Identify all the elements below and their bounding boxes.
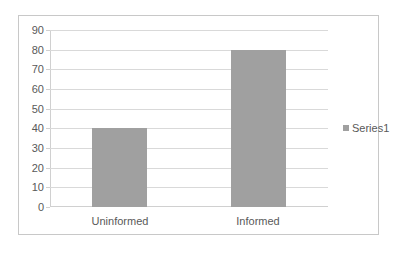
bar-informed [231,50,286,207]
y-tick-label: 80 [14,44,44,56]
x-label-uninformed: Uninformed [70,215,170,227]
y-tick [46,50,50,51]
y-tick-label: 60 [14,83,44,95]
y-tick [46,168,50,169]
gridline [50,30,328,31]
y-tick [46,128,50,129]
y-axis-line [50,30,51,207]
y-tick-label: 90 [14,24,44,36]
y-tick-label: 10 [14,181,44,193]
legend-label: Series1 [352,122,389,134]
y-tick [46,187,50,188]
legend: Series1 [343,122,389,134]
y-tick [46,207,50,208]
y-tick-label: 0 [14,201,44,213]
y-tick [46,109,50,110]
y-tick-label: 20 [14,162,44,174]
bar-uninformed [92,128,147,207]
gridline [50,89,328,90]
y-tick-label: 50 [14,103,44,115]
gridline [50,109,328,110]
plot-area [50,30,328,207]
y-tick-label: 40 [14,122,44,134]
y-tick-label: 70 [14,63,44,75]
y-tick [46,69,50,70]
gridline [50,50,328,51]
y-tick [46,148,50,149]
legend-swatch-icon [343,125,349,131]
x-label-informed: Informed [208,215,308,227]
y-tick [46,30,50,31]
y-tick [46,89,50,90]
gridline [50,69,328,70]
y-tick-label: 30 [14,142,44,154]
